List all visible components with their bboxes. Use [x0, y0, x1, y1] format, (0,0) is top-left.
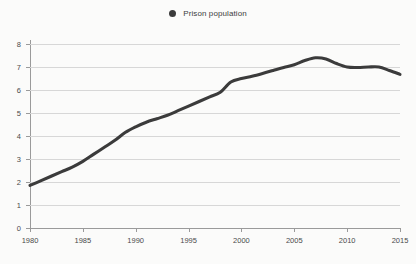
y-axis-label: 1	[0, 201, 21, 210]
x-axis-tick	[400, 228, 401, 232]
y-axis-tick	[26, 113, 30, 114]
y-axis-tick	[26, 67, 30, 68]
y-axis-label: 2	[0, 178, 21, 187]
y-axis-tick	[26, 44, 30, 45]
y-axis-tick	[26, 182, 30, 183]
x-axis-tick	[241, 228, 242, 232]
y-axis-tick	[26, 136, 30, 137]
y-axis-tick	[26, 205, 30, 206]
series-line-prison-population	[0, 0, 416, 264]
y-axis-label: 5	[0, 109, 21, 118]
y-axis-label: 6	[0, 86, 21, 95]
y-axis-label: 3	[0, 155, 21, 164]
x-axis-label: 1990	[116, 236, 156, 245]
y-axis-label: 7	[0, 63, 21, 72]
x-axis-label: 1985	[63, 236, 103, 245]
x-axis-label: 2000	[221, 236, 261, 245]
x-axis-tick	[294, 228, 295, 232]
x-axis-tick	[189, 228, 190, 232]
series-path	[30, 58, 400, 186]
x-axis-label: 1980	[10, 236, 50, 245]
x-axis-label: 1995	[169, 236, 209, 245]
y-axis-tick	[26, 159, 30, 160]
y-axis-label: 8	[0, 40, 21, 49]
x-axis-label: 2005	[274, 236, 314, 245]
y-axis-tick	[26, 90, 30, 91]
y-axis-label: 4	[0, 132, 21, 141]
y-axis-label: 0	[0, 224, 21, 233]
x-axis-label: 2010	[327, 236, 367, 245]
x-axis-label: 2015	[380, 236, 416, 245]
chart-container: Prison population 0123456781980198519901…	[0, 0, 416, 264]
x-axis-tick	[83, 228, 84, 232]
x-axis-tick	[136, 228, 137, 232]
x-axis-tick	[347, 228, 348, 232]
x-axis-tick	[30, 228, 31, 232]
